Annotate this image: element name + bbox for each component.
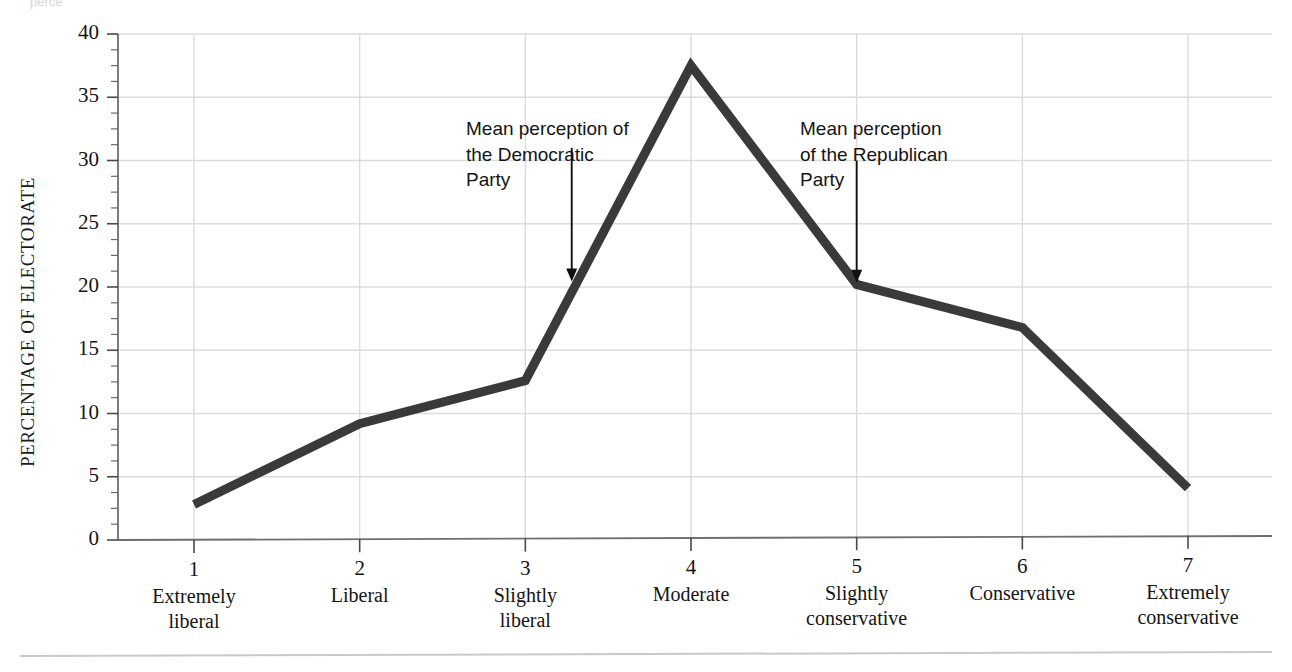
mean-perception-republican-party-label: Mean perception of the Republican Party xyxy=(800,116,948,193)
gridlines-group xyxy=(118,34,1272,540)
y-tick-label: 35 xyxy=(43,83,99,108)
x-tick-category-label: Extremelyconservative xyxy=(1078,580,1292,630)
tick-marks-group xyxy=(107,34,1188,553)
y-axis-label: PERCENTAGE OF ELECTORATE xyxy=(17,177,39,467)
y-tick-label: 10 xyxy=(43,400,99,425)
x-tick-number: 7 xyxy=(1088,553,1288,578)
figure-container: perce PERCENTAGE OF ELECTORATE 051015202… xyxy=(0,0,1292,672)
y-axis-label-container: PERCENTAGE OF ELECTORATE xyxy=(14,122,42,522)
y-tick-label: 30 xyxy=(43,147,99,172)
x-tick-category-line: liberal xyxy=(415,608,635,633)
y-tick-label: 40 xyxy=(43,20,99,45)
x-tick-category-line: liberal xyxy=(84,609,304,634)
y-tick-label: 0 xyxy=(43,526,99,551)
x-tick-category-line: conservative xyxy=(1078,605,1292,630)
y-tick-label: 15 xyxy=(43,336,99,361)
bottom-rule xyxy=(20,652,1272,656)
y-tick-label: 25 xyxy=(43,210,99,235)
x-tick-category-line: Extremely xyxy=(1078,580,1292,605)
x-tick-category-line: conservative xyxy=(747,606,967,631)
y-tick-label: 5 xyxy=(43,463,99,488)
mean-perception-democratic-party-label: Mean perception of the Democratic Party xyxy=(466,116,629,193)
y-tick-label: 20 xyxy=(43,273,99,298)
x-axis-line xyxy=(118,536,1272,540)
